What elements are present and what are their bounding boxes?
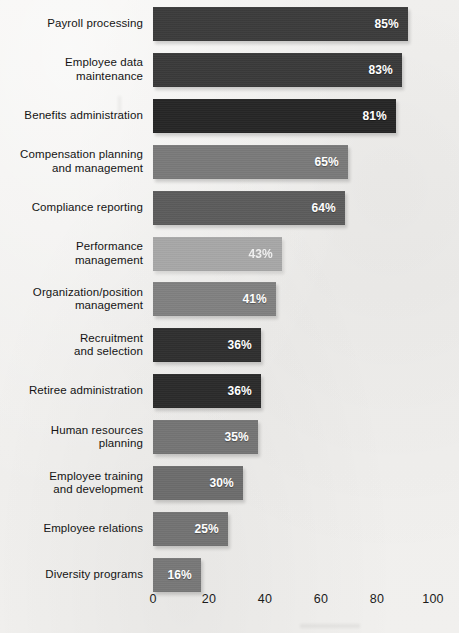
category-label: Benefits administration [0,109,143,123]
bar-value-label: 16% [167,568,192,582]
x-axis: 020406080100 [0,592,459,614]
horizontal-bar-chart: Payroll processing85%Employee data maint… [0,0,459,633]
bar[interactable]: 16% [153,558,201,592]
bar-container: 64% [153,191,345,225]
category-label: Human resources planning [0,424,143,451]
bar-container: 36% [153,328,261,362]
bar-value-label: 65% [314,155,339,169]
bar-container: 36% [153,374,261,408]
x-tick-label: 100 [422,592,443,606]
bar[interactable]: 83% [153,53,402,87]
bar-value-label: 83% [368,63,393,77]
bar-value-label: 25% [194,522,219,536]
bar[interactable]: 81% [153,99,396,133]
bar-grain-texture [153,99,396,133]
x-tick-label: 40 [258,592,272,606]
category-label: Recruitment and selection [0,332,143,359]
bar[interactable]: 65% [153,145,348,179]
bar[interactable]: 43% [153,237,282,271]
bar-grain-texture [153,7,408,41]
bar[interactable]: 36% [153,374,261,408]
category-label: Organization/position management [0,286,143,313]
bar[interactable]: 41% [153,282,276,316]
bar[interactable]: 30% [153,466,243,500]
bar[interactable]: 36% [153,328,261,362]
bar-grain-texture [153,53,402,87]
category-label: Employee training and development [0,470,143,497]
x-tick-label: 20 [202,592,216,606]
bar-container: 16% [153,558,201,592]
x-tick-label: 0 [149,592,156,606]
bar-container: 30% [153,466,243,500]
category-label: Compliance reporting [0,201,143,215]
category-label: Retiree administration [0,384,143,398]
bar[interactable]: 64% [153,191,345,225]
bar-value-label: 35% [224,430,249,444]
bar-container: 25% [153,512,228,546]
bar-container: 65% [153,145,348,179]
category-label: Diversity programs [0,568,143,582]
bar-container: 85% [153,7,408,41]
category-label: Employee data maintenance [0,56,143,83]
bar-value-label: 41% [242,292,267,306]
bar-value-label: 81% [362,109,387,123]
bar[interactable]: 85% [153,7,408,41]
bar-value-label: 64% [311,201,336,215]
bar-value-label: 43% [248,247,273,261]
bar-container: 83% [153,53,402,87]
bar-value-label: 30% [209,476,234,490]
plot-area: Payroll processing85%Employee data maint… [0,0,459,633]
x-tick-label: 60 [314,592,328,606]
bar-container: 81% [153,99,396,133]
category-label: Compensation planning and management [0,148,143,175]
bar[interactable]: 25% [153,512,228,546]
bar-value-label: 36% [227,384,252,398]
bar-value-label: 85% [374,17,399,31]
category-label: Payroll processing [0,17,143,31]
bar[interactable]: 35% [153,420,258,454]
bar-value-label: 36% [227,338,252,352]
category-label: Employee relations [0,522,143,536]
bar-container: 43% [153,237,282,271]
category-label: Performance management [0,240,143,267]
bar-container: 41% [153,282,276,316]
bar-container: 35% [153,420,258,454]
x-tick-label: 80 [370,592,384,606]
